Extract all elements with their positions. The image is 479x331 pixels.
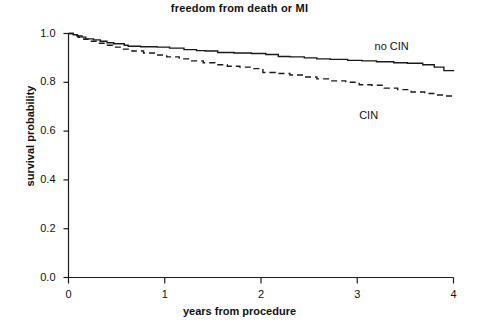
series-label-no-cin: no CIN bbox=[375, 40, 409, 52]
y-axis-tick-label: 0.4 bbox=[16, 173, 56, 185]
y-axis-tick-label: 0.2 bbox=[16, 222, 56, 234]
y-axis-tick-label: 0.0 bbox=[16, 271, 56, 283]
x-axis-tick-label: 0 bbox=[54, 288, 84, 300]
x-axis-tick-label: 4 bbox=[439, 288, 469, 300]
series-label-cin: CIN bbox=[359, 109, 378, 121]
y-axis-tick-label: 1.0 bbox=[16, 27, 56, 39]
y-axis-tick-label: 0.6 bbox=[16, 124, 56, 136]
x-axis-tick-label: 1 bbox=[150, 288, 180, 300]
survival-chart-figure: freedom from death or MI survival probab… bbox=[0, 0, 479, 331]
y-axis-tick-label: 0.8 bbox=[16, 75, 56, 87]
x-axis-tick-label: 2 bbox=[246, 288, 276, 300]
x-axis-tick-label: 3 bbox=[342, 288, 372, 300]
